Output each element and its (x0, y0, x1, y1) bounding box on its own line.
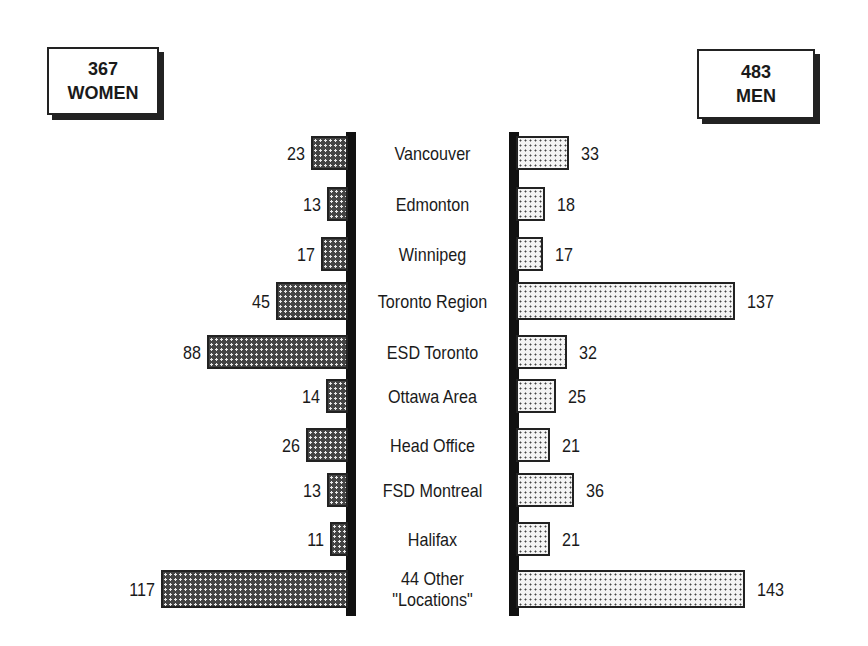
location-label: Head Office (367, 428, 497, 462)
men-bar (516, 237, 543, 271)
location-label-text: Halifax (408, 529, 457, 550)
location-label: 44 Other "Locations" (367, 564, 497, 614)
location-label-text: Head Office (390, 435, 475, 456)
location-label-text: 44 Other "Locations" (392, 568, 473, 610)
location-label-text: Vancouver (394, 143, 470, 164)
women-bar (207, 335, 348, 369)
men-bar (516, 136, 569, 170)
women-total-label: WOMEN (49, 81, 157, 105)
location-label-text: Winnipeg (399, 244, 466, 265)
women-bar (306, 428, 348, 462)
location-label-text: Edmonton (396, 194, 470, 215)
men-total-label: MEN (699, 84, 813, 108)
women-bar (330, 522, 348, 556)
women-bar (327, 187, 348, 221)
location-label: ESD Toronto (367, 335, 497, 369)
location-label-text: Toronto Region (378, 291, 488, 312)
women-value: 13 (270, 474, 321, 508)
location-label-text: Ottawa Area (388, 386, 477, 407)
men-bar (516, 187, 545, 221)
location-label: Halifax (367, 522, 497, 556)
location-label: Edmonton (367, 187, 497, 221)
location-label-text: ESD Toronto (387, 342, 478, 363)
women-value: 26 (249, 429, 300, 463)
location-label: Winnipeg (367, 237, 497, 271)
women-value: 13 (270, 188, 321, 222)
women-value: 23 (254, 137, 305, 171)
location-label: Vancouver (367, 136, 497, 170)
men-value: 17 (555, 238, 606, 272)
men-value: 25 (568, 380, 619, 414)
women-bar (326, 379, 348, 413)
women-value: 88 (150, 336, 201, 370)
men-value: 137 (747, 285, 798, 319)
men-value: 32 (579, 336, 630, 370)
men-value: 143 (757, 573, 808, 607)
men-total-count: 483 (699, 60, 813, 84)
men-bar (516, 428, 550, 462)
women-value: 45 (219, 285, 270, 319)
location-label: Ottawa Area (367, 379, 497, 413)
men-bar (516, 379, 556, 413)
men-bar (516, 335, 567, 369)
men-bar (516, 570, 745, 608)
location-label-text: FSD Montreal (383, 480, 483, 501)
men-value: 21 (562, 429, 613, 463)
men-bar (516, 522, 550, 556)
women-total-box: 367 WOMEN (47, 47, 159, 115)
men-value: 21 (562, 523, 613, 557)
women-bar (161, 570, 348, 608)
women-bar (327, 473, 348, 507)
location-label: Toronto Region (367, 282, 497, 320)
men-value: 33 (581, 137, 632, 171)
men-total-box: 483 MEN (697, 49, 815, 119)
location-label: FSD Montreal (367, 473, 497, 507)
men-value: 36 (586, 474, 637, 508)
women-bar (276, 282, 348, 320)
women-bar (321, 237, 348, 271)
women-value: 17 (264, 238, 315, 272)
women-total-count: 367 (49, 57, 157, 81)
men-value: 18 (557, 188, 608, 222)
women-value: 117 (104, 573, 155, 607)
women-value: 11 (273, 523, 324, 557)
women-value: 14 (269, 380, 320, 414)
women-bar (311, 136, 348, 170)
men-bar (516, 282, 735, 320)
men-bar (516, 473, 574, 507)
